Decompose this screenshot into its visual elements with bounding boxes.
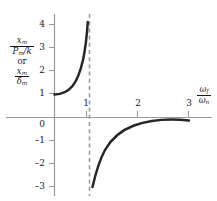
y-axis-ticks [49, 25, 55, 187]
y-tick-label-neg2: –2 [24, 159, 45, 168]
x-axis-ticks [87, 111, 189, 118]
x-tick-label-1: 1 [79, 99, 93, 108]
y-tick-label-0: 0 [29, 120, 45, 129]
x-axis-title-fraction: ωf ωn [197, 85, 212, 105]
y-axis-title: xm Pm/k or xm δm [2, 36, 42, 87]
y-axis-title-denominator-2: δm [15, 77, 30, 87]
x-tick-label-2: 2 [131, 99, 145, 108]
y-tick-label-neg1: –1 [24, 136, 45, 145]
y-axis-title-connector: or [2, 57, 42, 66]
y-tick-label-4: 4 [29, 20, 45, 29]
chart-figure: 4 3 2 1 0 –1 –2 –3 1 2 3 xm Pm/k or xm δ… [0, 0, 217, 201]
curve-right-branch [93, 120, 190, 187]
y-tick-label-neg3: –3 [24, 182, 45, 191]
x-axis-title-denominator: ωn [197, 96, 212, 106]
y-tick-label-1: 1 [29, 89, 45, 98]
x-axis-title: ωf ωn [191, 85, 217, 105]
y-axis-title-fraction-1: xm Pm/k [10, 36, 33, 56]
y-axis-title-fraction-2: xm δm [15, 67, 30, 87]
y-axis-title-denominator-1: Pm/k [10, 47, 33, 57]
curve-left-branch [55, 22, 88, 95]
